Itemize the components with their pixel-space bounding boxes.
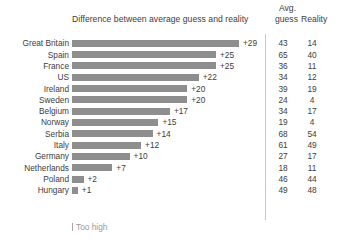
reality-value: 40 (301, 50, 323, 60)
bar-wrapper (72, 164, 112, 171)
avg-guess-header-line1: Avg. (279, 3, 296, 13)
bar (72, 142, 141, 149)
bar-value-label: +12 (145, 140, 159, 150)
avg-guess-value: 61 (272, 140, 294, 150)
bar (72, 96, 187, 103)
bar-value-label: +29 (243, 38, 257, 48)
bar-wrapper (72, 176, 84, 183)
category-label: Ireland (1, 84, 69, 94)
bar (72, 40, 239, 47)
reality-value: 4 (301, 117, 323, 127)
bar (72, 176, 84, 183)
bar-wrapper (72, 74, 199, 81)
avg-guess-value: 18 (272, 163, 294, 173)
bar (72, 164, 112, 171)
bar-column-header: Difference between average guess and rea… (72, 14, 248, 24)
bar-value-label: +20 (191, 84, 205, 94)
chart-row: Hungary+14948 (0, 185, 337, 196)
bar-wrapper (72, 108, 170, 115)
avg-guess-value: 27 (272, 151, 294, 161)
chart-row: US+223412 (0, 72, 337, 83)
reality-value: 49 (301, 140, 323, 150)
bar (72, 153, 130, 160)
avg-guess-value: 19 (272, 117, 294, 127)
bar (72, 74, 199, 81)
bar-value-label: +7 (116, 163, 125, 173)
avg-guess-value: 43 (272, 38, 294, 48)
bar (72, 108, 170, 115)
chart-rows: Great Britain+294314Spain+256540France+2… (0, 38, 337, 197)
bar (72, 187, 78, 194)
legend-tick-icon (72, 223, 73, 231)
reality-value: 19 (301, 84, 323, 94)
category-label: Germany (1, 151, 69, 161)
chart-row: Netherlands+71811 (0, 163, 337, 174)
bar-value-label: +22 (203, 72, 217, 82)
bar-value-label: +2 (88, 174, 97, 184)
chart-row: Norway+15194 (0, 117, 337, 128)
bar (72, 119, 158, 126)
category-label: Sweden (1, 95, 69, 105)
bar (72, 85, 187, 92)
reality-value: 11 (301, 61, 323, 71)
bar-wrapper (72, 142, 141, 149)
legend-label: Too high (76, 222, 107, 232)
avg-guess-value: 46 (272, 174, 294, 184)
chart-row: France+253611 (0, 61, 337, 72)
avg-guess-value: 49 (272, 185, 294, 195)
reality-value: 44 (301, 174, 323, 184)
reality-value: 11 (301, 163, 323, 173)
bar-wrapper (72, 119, 158, 126)
bar-wrapper (72, 153, 130, 160)
chart-row: Germany+102717 (0, 151, 337, 162)
legend-too-high: Too high (72, 222, 107, 232)
avg-guess-value: 24 (272, 95, 294, 105)
bar-value-label: +25 (220, 50, 234, 60)
category-label: Serbia (1, 129, 69, 139)
bar-value-label: +1 (82, 185, 91, 195)
bar-wrapper (72, 40, 239, 47)
chart-row: Ireland+203919 (0, 83, 337, 94)
reality-value: 4 (301, 95, 323, 105)
chart-row: Spain+256540 (0, 49, 337, 60)
category-label: Hungary (1, 185, 69, 195)
reality-value: 54 (301, 129, 323, 139)
category-label: Netherlands (1, 163, 69, 173)
bar-value-label: +17 (174, 106, 188, 116)
chart-container: Difference between average guess and rea… (0, 0, 337, 245)
reality-value: 17 (301, 106, 323, 116)
chart-row: Sweden+20244 (0, 95, 337, 106)
bar-value-label: +15 (162, 117, 176, 127)
bar-wrapper (72, 62, 216, 69)
bar-wrapper (72, 85, 187, 92)
chart-row: Serbia+146854 (0, 129, 337, 140)
chart-row: Italy+126149 (0, 140, 337, 151)
category-label: Poland (1, 174, 69, 184)
bar-wrapper (72, 130, 153, 137)
bar-value-label: +20 (191, 95, 205, 105)
category-label: Italy (1, 140, 69, 150)
bar-value-label: +25 (220, 61, 234, 71)
avg-guess-value: 34 (272, 72, 294, 82)
reality-value: 17 (301, 151, 323, 161)
reality-value: 12 (301, 72, 323, 82)
bar-wrapper (72, 187, 78, 194)
chart-row: Poland+24644 (0, 174, 337, 185)
bar-value-label: +10 (134, 151, 148, 161)
bar-wrapper (72, 51, 216, 58)
bar (72, 62, 216, 69)
avg-guess-value: 34 (272, 106, 294, 116)
category-label: US (1, 72, 69, 82)
avg-guess-value: 68 (272, 129, 294, 139)
avg-guess-value: 36 (272, 61, 294, 71)
avg-guess-header-line2: guess (275, 14, 298, 24)
category-label: Great Britain (1, 38, 69, 48)
reality-value: 14 (301, 38, 323, 48)
category-label: Spain (1, 50, 69, 60)
bar-wrapper (72, 96, 187, 103)
bar (72, 130, 153, 137)
avg-guess-value: 39 (272, 84, 294, 94)
bar-value-label: +14 (157, 129, 171, 139)
category-label: Belgium (1, 106, 69, 116)
reality-value: 48 (301, 185, 323, 195)
